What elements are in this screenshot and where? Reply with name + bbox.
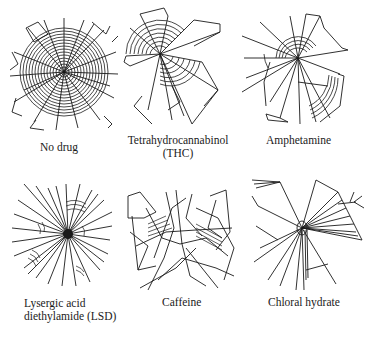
caption-amphetamine: Amphetamine: [266, 134, 331, 147]
caption-no-drug: No drug: [40, 141, 78, 154]
caption-lsd-line-2: diethylamide (LSD): [24, 310, 116, 323]
caption-caffeine: Caffeine: [162, 296, 201, 309]
caption-thc-line-1: Tetrahydrocannabinol: [126, 134, 230, 147]
caption-amphetamine-line-1: Amphetamine: [266, 134, 331, 146]
web-amphetamine-illustration: [240, 10, 352, 128]
caption-thc-line-2: (THC): [126, 147, 230, 160]
web-lsd-illustration: [10, 182, 114, 290]
web-thc-illustration: [122, 6, 228, 128]
caption-lsd: Lysergic acid diethylamide (LSD): [24, 297, 116, 323]
web-caffeine-illustration: [126, 188, 236, 292]
web-no-drug-illustration: [8, 12, 120, 132]
caption-chloral-hydrate-line-1: Chloral hydrate: [268, 296, 340, 308]
caption-caffeine-line-1: Caffeine: [162, 296, 201, 308]
web-chloral-hydrate-illustration: [250, 178, 366, 294]
caption-thc: Tetrahydrocannabinol (THC): [126, 134, 230, 160]
caption-chloral-hydrate: Chloral hydrate: [268, 296, 340, 309]
caption-no-drug-line-1: No drug: [40, 141, 78, 153]
caption-lsd-line-1: Lysergic acid: [24, 297, 116, 310]
